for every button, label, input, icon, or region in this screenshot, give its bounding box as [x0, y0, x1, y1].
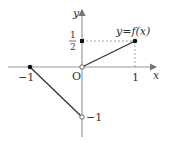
tick-x-neg1: −1 — [18, 71, 34, 84]
point-0-neg1-open — [80, 115, 84, 119]
point-1-half — [133, 39, 138, 44]
y-axis-label: y — [72, 7, 80, 20]
tick-y-half-numerator: 1 — [70, 30, 76, 40]
tick-y-neg1: −1 — [86, 111, 102, 124]
point-origin-open — [80, 65, 84, 69]
x-axis-label: x — [153, 69, 160, 82]
segment-right — [82, 41, 135, 67]
point-neg1-0 — [28, 65, 33, 70]
origin-label: O — [72, 70, 81, 83]
tick-x-pos1: 1 — [132, 71, 139, 84]
function-graph: y x O −1 1 −1 1 2 y=f(x) — [0, 0, 172, 144]
point-0-half — [80, 39, 84, 43]
tick-y-half-denominator: 2 — [70, 42, 76, 52]
function-label: y=f(x) — [115, 25, 150, 38]
